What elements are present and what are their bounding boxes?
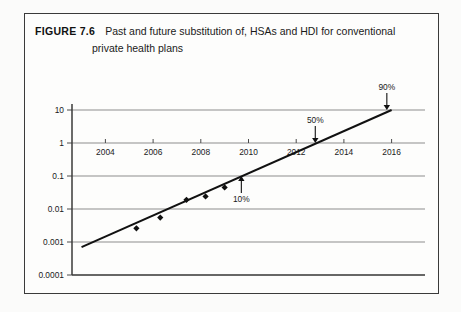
caption-text-line-1: Past and future substitution of, HSAs an… [105,25,395,37]
figure-container: FIGURE 7.6Past and future substitution o… [24,13,439,294]
caption-line-1: FIGURE 7.6Past and future substitution o… [35,22,433,39]
caption-text-line-2: private health plans [92,42,183,54]
figure-caption: FIGURE 7.6Past and future substitution o… [35,22,433,56]
caption-line-2: private health plans [35,39,433,56]
figure-number-label: FIGURE 7.6 [35,25,95,37]
